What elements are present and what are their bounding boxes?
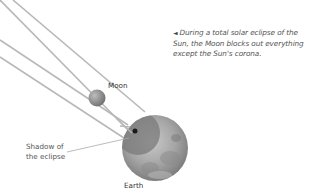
caption: ◄During a total solar eclipse of the Sun… — [173, 28, 309, 60]
shadow-leader-line — [67, 138, 129, 152]
shadow-label-line1: Shadow of — [26, 142, 76, 152]
moon-label: Moon — [108, 81, 128, 90]
sun-rays — [0, 0, 145, 138]
shadow-label-line2: the eclipse — [26, 152, 76, 162]
pointer-left-icon: ◄ — [173, 29, 178, 36]
earth-label: Earth — [124, 181, 143, 190]
shadow-core — [133, 129, 138, 134]
moon-body — [89, 90, 106, 107]
earth-body — [116, 111, 188, 181]
ray-1 — [0, 0, 128, 130]
ray-2 — [13, 0, 145, 112]
eclipse-shadow — [116, 111, 160, 155]
caption-text: During a total solar eclipse of the Sun,… — [173, 28, 304, 58]
shadow-label: Shadow of the eclipse — [26, 142, 76, 162]
